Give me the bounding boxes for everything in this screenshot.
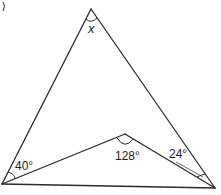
left-side-line xyxy=(2,9,91,184)
base-line xyxy=(2,184,215,188)
right-side-line xyxy=(91,9,215,188)
corner-fragment-mark xyxy=(3,2,5,11)
interior-angle-label: 128° xyxy=(115,149,140,163)
apex-angle-label: x xyxy=(87,21,95,36)
geometry-diagram: x 40° 128° 24° xyxy=(0,0,221,195)
bottom-left-angle-arc xyxy=(8,172,15,179)
interior-angle-arc xyxy=(117,138,133,144)
bottom-right-angle-label: 24° xyxy=(169,147,187,161)
bottom-left-angle-label: 40° xyxy=(15,159,33,173)
